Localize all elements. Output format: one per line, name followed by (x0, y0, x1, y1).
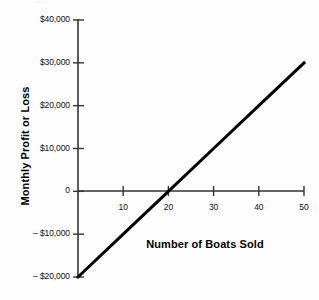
y-axis-tick-label: – $20,000 (10, 271, 70, 283)
x-axis-tick-label: 20 (153, 196, 183, 214)
x-axis-tick-label-text: 40 (254, 202, 263, 212)
y-axis-title: Monthly Profit or Loss (19, 66, 31, 226)
x-axis-tick-label-text: 20 (164, 202, 173, 212)
x-axis-tick-label-text: 30 (209, 202, 218, 212)
x-axis-tick-label-text: 50 (299, 202, 308, 212)
x-axis-tick-label: 10 (108, 196, 138, 214)
y-axis-tick-label-text: – $10,000 (12, 228, 70, 238)
x-axis-tick-label-text: 10 (119, 202, 128, 212)
y-axis-tick-label: $40,000 (10, 14, 70, 26)
y-axis-tick-label: – $10,000 (10, 228, 70, 240)
x-axis-title: Number of Boats Sold (120, 238, 290, 250)
x-axis-tick-label: 30 (199, 196, 229, 214)
y-axis-tick-label-text: $40,000 (12, 14, 70, 24)
profit-loss-chart: —— $40,000$30,000$20,000$10,0000– $10,00… (0, 0, 319, 300)
y-axis-tick-label-text: – $20,000 (12, 271, 70, 281)
x-axis-tick-label: 40 (244, 196, 274, 214)
x-axis-tick-label: 50 (289, 196, 319, 214)
